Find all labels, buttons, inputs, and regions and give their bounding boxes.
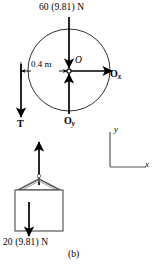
reaction-x-label-sub: x <box>118 73 122 81</box>
reaction-y-label-sub: y <box>72 120 75 128</box>
reaction-y-label: Oy <box>64 116 75 128</box>
radius-dimension-label: 0.4 m <box>31 60 52 69</box>
figure-free-body-diagram: 60 (9.81) N 0.4 m O Ox Oy T y x 20 (9.81… <box>0 0 157 267</box>
diagram-canvas <box>0 0 157 267</box>
axis-y-label: y <box>114 125 118 134</box>
sling-strap-inner-right <box>39 181 56 190</box>
reaction-x-label-main: O <box>110 68 118 79</box>
reaction-y-label-main: O <box>64 115 72 126</box>
sling-strap-left <box>18 179 39 190</box>
sling-strap-right <box>39 179 60 190</box>
axis-x-label: x <box>145 160 149 169</box>
weight-label: 20 (9.81) N <box>3 238 48 248</box>
center-point-marker <box>67 69 71 73</box>
tension-label: T <box>17 119 24 129</box>
figure-caption: (b) <box>68 250 79 260</box>
sling-strap-inner-left <box>22 181 39 190</box>
reaction-x-label: Ox <box>110 69 121 81</box>
crate-body <box>15 190 63 231</box>
applied-force-label: 60 (9.81) N <box>39 3 84 13</box>
sling-ring-icon <box>37 174 40 177</box>
center-point-label: O <box>75 56 82 66</box>
